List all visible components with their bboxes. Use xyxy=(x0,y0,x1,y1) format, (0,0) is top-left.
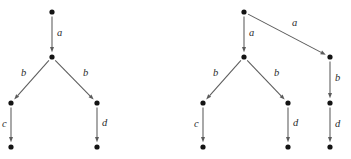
edge-right-diagram-edge-mid-to-left xyxy=(206,60,241,99)
edge-label-d: d xyxy=(102,118,107,129)
edge-right-diagram-edge-left-to-leaf xyxy=(201,108,205,143)
edge-right-diagram-edge-center-right-to-leaf xyxy=(286,108,290,143)
edge-label-b: b xyxy=(21,68,26,79)
node-right-leaf xyxy=(94,144,99,149)
edge-label-a: a xyxy=(249,28,254,39)
node-left xyxy=(200,100,205,105)
arrow-head-icon xyxy=(242,47,246,52)
edge-right-diagram-edge-mid-to-center-right xyxy=(247,60,285,99)
diagram-canvas xyxy=(0,0,351,159)
edge-left-diagram-edge-root-to-mid xyxy=(50,17,54,53)
edge-right-diagram-edge-root-to-mid xyxy=(242,17,246,53)
edge-label-b: b xyxy=(213,68,218,79)
edge-left-diagram-edge-mid-to-left xyxy=(14,60,49,99)
edge-label-b: b xyxy=(83,68,88,79)
node-left xyxy=(8,100,13,105)
arrow-head-icon xyxy=(286,137,290,142)
edge-left-diagram-edge-right-to-leaf xyxy=(95,108,99,143)
node-left-leaf xyxy=(200,144,205,149)
node-branch-leaf xyxy=(327,144,332,149)
edge-label-a: a xyxy=(57,28,62,39)
arrow-head-icon xyxy=(328,137,332,142)
arrow-head-icon xyxy=(201,137,205,142)
edge-right-diagram-edge-branch-mid-to-leaf xyxy=(328,108,332,143)
arrow-head-icon xyxy=(320,51,326,55)
edge-label-d: d xyxy=(293,118,298,129)
arrow-head-icon xyxy=(95,137,99,142)
node-mid xyxy=(241,54,246,59)
edge-right-diagram-edge-root-to-branch xyxy=(248,14,326,55)
edge-label-d: d xyxy=(335,119,340,130)
node-branch-mid xyxy=(327,100,332,105)
figure-root: abbcdaabbbcdd xyxy=(0,0,351,159)
edge-left-diagram-edge-left-to-leaf xyxy=(9,108,13,143)
node-root xyxy=(49,9,54,14)
node-center-right xyxy=(285,100,290,105)
edge-right-diagram-edge-branch-to-branch-mid xyxy=(328,62,332,99)
node-mid xyxy=(49,54,54,59)
node-branch xyxy=(327,54,332,59)
edge-line xyxy=(248,14,321,52)
node-center-right-leaf xyxy=(285,144,290,149)
node-right xyxy=(94,100,99,105)
edge-label-b: b xyxy=(274,68,279,79)
edge-label-b: b xyxy=(335,73,340,84)
edge-label-c: c xyxy=(2,119,7,130)
edge-label-a: a xyxy=(292,18,297,29)
edge-label-c: c xyxy=(194,119,199,130)
arrow-head-icon xyxy=(328,93,332,98)
node-left-leaf xyxy=(8,144,13,149)
arrow-head-icon xyxy=(50,47,54,52)
arrow-head-icon xyxy=(9,137,13,142)
node-root xyxy=(241,9,246,14)
